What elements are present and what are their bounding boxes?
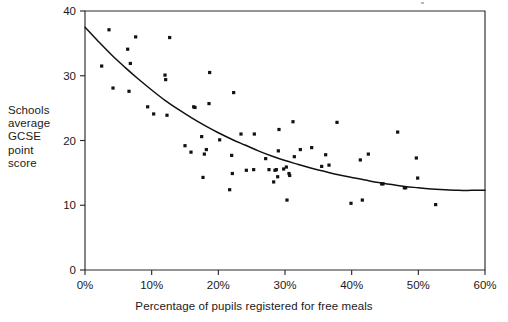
data-point: [201, 176, 204, 179]
y-tick-label: 10: [63, 199, 76, 211]
x-tick-label: 60%: [473, 279, 496, 291]
data-point: [228, 188, 231, 191]
y-tick-label: 40: [63, 5, 76, 17]
data-point: [245, 169, 248, 172]
data-point: [189, 151, 192, 154]
data-point: [205, 148, 208, 151]
scatter-chart-figure: Schools average GCSE point score 0102030…: [0, 0, 508, 322]
data-point: [276, 175, 279, 178]
data-point: [253, 132, 256, 135]
data-point: [100, 64, 103, 67]
x-tick-label: 0%: [77, 279, 94, 291]
data-point: [200, 135, 203, 138]
data-point: [264, 157, 267, 160]
data-point: [164, 78, 167, 81]
data-point: [288, 174, 291, 177]
data-point: [335, 121, 338, 124]
data-point: [324, 153, 327, 156]
y-tick-label: 30: [63, 70, 76, 82]
x-tick-label: 40%: [340, 279, 363, 291]
data-point: [310, 146, 313, 149]
data-point: [239, 132, 242, 135]
y-tick-label: 0: [70, 264, 76, 276]
data-point: [349, 202, 352, 205]
x-axis-label: Percentage of pupils registered for free…: [0, 300, 508, 312]
data-point: [134, 35, 137, 38]
data-point: [252, 168, 255, 171]
data-point: [291, 120, 294, 123]
data-point: [293, 155, 296, 158]
data-point: [416, 176, 419, 179]
data-point: [396, 130, 399, 133]
plot-area: 010203040 0%10%20%30%40%50%60%: [0, 0, 508, 322]
data-point: [193, 106, 196, 109]
data-point: [203, 153, 206, 156]
data-point: [277, 149, 280, 152]
data-point: [415, 156, 418, 159]
x-tick-label: 50%: [407, 279, 430, 291]
data-point: [361, 198, 364, 201]
data-point: [367, 153, 370, 156]
x-axis-ticks: 0%10%20%30%40%50%60%: [77, 270, 497, 291]
data-point: [327, 164, 330, 167]
data-point: [320, 165, 323, 168]
data-point: [267, 168, 270, 171]
data-point: [232, 91, 235, 94]
x-tick-label: 10%: [140, 279, 163, 291]
data-point: [272, 180, 275, 183]
data-point: [208, 71, 211, 74]
data-point: [231, 172, 234, 175]
data-point: [111, 86, 114, 89]
data-point: [152, 112, 155, 115]
data-point: [434, 203, 437, 206]
scatter-points: [100, 28, 437, 206]
y-tick-label: 20: [63, 135, 76, 147]
data-point: [285, 165, 288, 168]
data-point: [129, 62, 132, 65]
data-point: [285, 198, 288, 201]
plot-frame: [85, 11, 485, 270]
data-point: [146, 105, 149, 108]
data-point: [230, 154, 233, 157]
data-point: [163, 74, 166, 77]
data-point: [277, 128, 280, 131]
data-point: [359, 158, 362, 161]
data-point: [207, 102, 210, 105]
scan-speck: [421, 2, 424, 4]
data-point: [127, 90, 130, 93]
data-point: [299, 148, 302, 151]
data-point: [183, 144, 186, 147]
data-point: [165, 114, 168, 117]
x-tick-label: 20%: [207, 279, 230, 291]
data-point: [275, 168, 278, 171]
data-point: [107, 28, 110, 31]
y-axis-ticks: 010203040: [63, 5, 85, 276]
x-tick-label: 30%: [273, 279, 296, 291]
data-point: [126, 48, 129, 51]
data-point: [168, 36, 171, 39]
data-point: [218, 138, 221, 141]
